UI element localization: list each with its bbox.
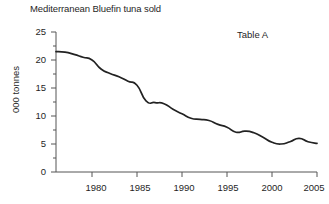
x-axis-ticks xyxy=(92,172,317,177)
y-axis-ticks xyxy=(51,32,56,172)
chart-plot-svg xyxy=(0,0,329,204)
chart-container: Mediterranean Bluefin tuna sold Table A … xyxy=(0,0,329,204)
axis-lines xyxy=(56,32,317,172)
data-series-line xyxy=(56,52,317,144)
